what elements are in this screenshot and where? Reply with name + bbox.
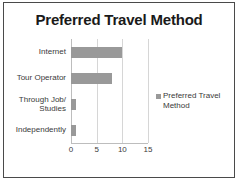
bar-slot-tour-operator [71, 65, 148, 91]
x-axis-line [71, 143, 148, 144]
x-tick-label-10: 10 [118, 145, 127, 154]
legend-swatch-icon [156, 94, 161, 99]
category-axis: Internet Tour Operator Through Job/ Stud… [6, 39, 69, 143]
bar-series [71, 39, 148, 143]
x-tick-label-0: 0 [69, 145, 73, 154]
category-label-through-job-studies: Through Job/ Studies [6, 91, 69, 117]
chart-title: Preferred Travel Method [4, 11, 234, 28]
bar-tour-operator [71, 73, 112, 84]
gridline-15 [148, 39, 149, 143]
bar-slot-independently [71, 117, 148, 143]
x-axis-ticks: 0 5 10 15 [71, 145, 148, 159]
category-label-tour-operator: Tour Operator [6, 65, 69, 91]
chart-container: Preferred Travel Method Internet Tour Op… [3, 2, 235, 178]
bar-through-job-studies [71, 99, 76, 110]
plot-area [71, 39, 148, 143]
legend-entry-label: Preferred Travel Method [163, 91, 230, 111]
plot-wrapper: Internet Tour Operator Through Job/ Stud… [4, 39, 236, 169]
x-tick-label-5: 5 [94, 145, 98, 154]
bar-slot-internet [71, 39, 148, 65]
category-label-independently: Independently [6, 117, 69, 143]
category-label-internet: Internet [6, 39, 69, 65]
bar-internet [71, 47, 122, 58]
chart-legend: Preferred Travel Method [156, 91, 230, 111]
bar-independently [71, 125, 76, 136]
bar-slot-through-job-studies [71, 91, 148, 117]
x-tick-label-15: 15 [144, 145, 153, 154]
